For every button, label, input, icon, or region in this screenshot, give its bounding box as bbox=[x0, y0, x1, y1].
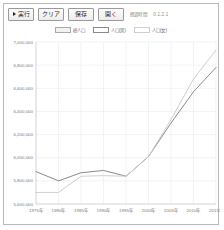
svg-text:6,200,000: 6,200,000 bbox=[13, 132, 33, 137]
svg-text:1995年: 1995年 bbox=[119, 207, 134, 214]
chart-ytick-labels: 7,000,0006,800,0006,600,0006,400,0006,20… bbox=[13, 40, 33, 207]
svg-text:1975年: 1975年 bbox=[29, 207, 44, 214]
legend-swatch-female bbox=[134, 27, 150, 33]
status-value: 0.1.2.1 bbox=[153, 12, 168, 17]
svg-text:2010年: 2010年 bbox=[187, 207, 202, 214]
run-button-label: 実行 bbox=[18, 9, 30, 20]
svg-text:6,000,000: 6,000,000 bbox=[13, 155, 33, 160]
svg-text:5,600,000: 5,600,000 bbox=[13, 202, 33, 207]
toolbar-status: 経過時間 0.1.2.1 bbox=[130, 11, 168, 17]
legend-label-male: 人口(男) bbox=[111, 27, 126, 33]
svg-text:7,000,000: 7,000,000 bbox=[13, 40, 33, 45]
clear-button[interactable]: クリア bbox=[38, 8, 64, 21]
line-chart: 7,000,0006,800,0006,600,0006,400,0006,20… bbox=[4, 36, 220, 226]
legend-item[interactable]: 総人口 bbox=[55, 27, 85, 33]
legend-swatch-male bbox=[93, 27, 109, 33]
legend-item[interactable]: 人口(男) bbox=[93, 27, 126, 33]
app-window: 実行 クリア 保存 開く 経過時間 0.1.2.1 総人口 人口(男) 人口(女… bbox=[3, 3, 219, 225]
svg-text:2000年: 2000年 bbox=[142, 207, 157, 214]
chart-xtick-labels: 1975年1980年1985年1990年1995年2000年2005年2010年… bbox=[29, 207, 220, 214]
run-button[interactable]: 実行 bbox=[8, 8, 34, 21]
svg-text:2005年: 2005年 bbox=[164, 207, 179, 214]
open-button[interactable]: 開く bbox=[98, 8, 124, 21]
legend-swatch-total bbox=[55, 27, 71, 33]
svg-text:6,800,000: 6,800,000 bbox=[13, 63, 33, 68]
status-label: 経過時間 bbox=[130, 12, 147, 17]
svg-text:6,600,000: 6,600,000 bbox=[13, 86, 33, 91]
chart-legend: 総人口 人口(男) 人口(女) bbox=[4, 24, 218, 36]
play-icon bbox=[13, 12, 16, 16]
save-button[interactable]: 保存 bbox=[68, 8, 94, 21]
legend-label-female: 人口(女) bbox=[152, 27, 167, 33]
svg-text:5,800,000: 5,800,000 bbox=[13, 178, 33, 183]
chart-area: 7,000,0006,800,0006,600,0006,400,0006,20… bbox=[4, 36, 220, 226]
legend-item[interactable]: 人口(女) bbox=[134, 27, 167, 33]
open-button-label: 開く bbox=[105, 9, 117, 20]
svg-text:2015年: 2015年 bbox=[209, 207, 220, 214]
svg-text:1990年: 1990年 bbox=[97, 207, 112, 214]
svg-text:1980年: 1980年 bbox=[52, 207, 67, 214]
toolbar: 実行 クリア 保存 開く 経過時間 0.1.2.1 bbox=[4, 4, 218, 24]
svg-text:1985年: 1985年 bbox=[74, 207, 89, 214]
clear-button-label: クリア bbox=[42, 9, 60, 20]
save-button-label: 保存 bbox=[75, 9, 87, 20]
svg-text:6,400,000: 6,400,000 bbox=[13, 109, 33, 114]
legend-label-total: 総人口 bbox=[73, 27, 85, 33]
